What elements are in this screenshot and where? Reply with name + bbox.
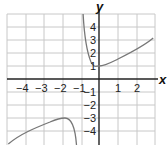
y-tick-label: −3 — [83, 112, 96, 124]
x-axis-label: x — [158, 72, 167, 87]
x-tick-label: −4 — [16, 82, 29, 94]
y-tick-label: 3 — [90, 34, 96, 46]
y-tick-label: 4 — [90, 21, 96, 33]
y-tick-label: −1 — [83, 86, 96, 98]
y-tick-label: 2 — [90, 47, 96, 59]
x-tick-label: −2 — [54, 82, 67, 94]
y-axis-label: y — [95, 0, 104, 14]
x-tick-label: 2 — [134, 82, 140, 94]
y-tick-label: 1 — [90, 60, 96, 72]
y-tick-label: −4 — [83, 125, 96, 137]
y-tick-label: −2 — [83, 99, 96, 111]
x-tick-label: 1 — [115, 82, 121, 94]
graph: −4 −3 −2 −1 1 2 4 3 2 1 −1 −2 −3 −4 y x — [0, 0, 168, 145]
x-tick-label: −3 — [35, 82, 48, 94]
